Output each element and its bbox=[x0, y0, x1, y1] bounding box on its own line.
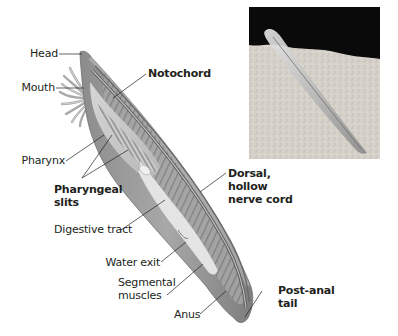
label-head: Head bbox=[20, 47, 58, 60]
label-anus: Anus bbox=[174, 308, 200, 321]
label-pharynx: Pharynx bbox=[10, 154, 65, 167]
lancelet-photo-image bbox=[249, 7, 380, 159]
label-digestive-tract: Digestive tract bbox=[54, 223, 132, 236]
label-dorsal-hollow-nerve-cord: Dorsal, hollow nerve cord bbox=[228, 167, 293, 206]
lancelet-photo bbox=[249, 7, 380, 159]
label-mouth: Mouth bbox=[10, 81, 55, 94]
label-segmental-muscles: Segmental muscles bbox=[118, 276, 166, 302]
label-post-anal-tail: Post-anal tail bbox=[278, 284, 335, 310]
label-pharyngeal-slits: Pharyngeal slits bbox=[54, 183, 122, 209]
label-notochord: Notochord bbox=[148, 67, 211, 80]
label-water-exit: Water exit bbox=[96, 256, 160, 269]
lancelet-diagram: Head Mouth Pharynx Pharyngeal slits Dige… bbox=[0, 0, 398, 336]
